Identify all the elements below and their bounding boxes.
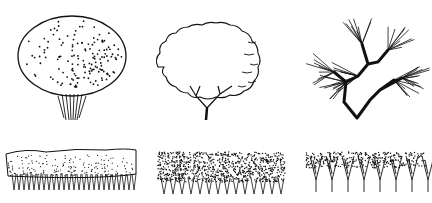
sparse-shrub-row xyxy=(302,150,430,198)
trimmed-hedge xyxy=(2,140,140,195)
round-dotted-tree xyxy=(12,12,132,124)
branching-tree xyxy=(312,20,422,120)
cloud-outline-tree xyxy=(148,12,276,124)
dense-hedge xyxy=(155,150,287,198)
